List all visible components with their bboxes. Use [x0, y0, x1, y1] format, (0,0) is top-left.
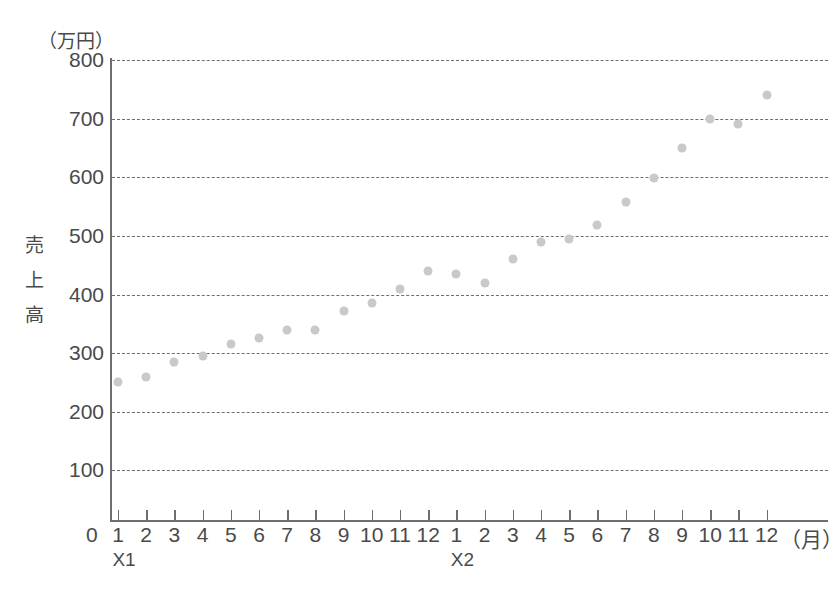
- gridline-300: [112, 353, 828, 354]
- x-tick-label-3: 3: [169, 523, 181, 547]
- x-tick-mark-7: [287, 510, 288, 520]
- gridline-400: [112, 295, 828, 296]
- y-axis-tick-labels: 100200300400500600700800: [48, 60, 104, 520]
- x-tick-label-4: 4: [197, 523, 209, 547]
- gridline-200: [112, 412, 828, 413]
- x-tick-mark-18: [597, 510, 598, 520]
- x-tick-label-19: 7: [620, 523, 632, 547]
- y-tick-label-400: 400: [69, 283, 104, 307]
- x-tick-mark-17: [569, 510, 570, 520]
- x-tick-label-1: 1: [112, 523, 124, 547]
- data-point: [593, 221, 602, 230]
- x-tick-label-6: 6: [253, 523, 265, 547]
- data-point: [142, 372, 151, 381]
- x-tick-label-11: 11: [389, 523, 411, 547]
- y-tick-label-200: 200: [69, 400, 104, 424]
- x-tick-mark-22: [710, 510, 711, 520]
- data-point: [621, 198, 630, 207]
- data-point: [396, 284, 405, 293]
- data-point: [424, 267, 433, 276]
- gridline-600: [112, 177, 828, 178]
- data-point: [649, 174, 658, 183]
- x-tick-label-7: 7: [281, 523, 293, 547]
- data-point: [452, 269, 461, 278]
- x-tick-mark-3: [174, 510, 175, 520]
- x-tick-label-14: 2: [479, 523, 491, 547]
- data-point: [537, 237, 546, 246]
- gridline-700: [112, 119, 828, 120]
- x-tick-mark-8: [315, 510, 316, 520]
- gridline-800: [112, 60, 828, 61]
- data-point: [255, 334, 264, 343]
- x-tick-label-9: 9: [338, 523, 350, 547]
- y-axis-title-char-0: 売: [22, 228, 46, 263]
- x-tick-label-5: 5: [225, 523, 237, 547]
- data-point: [706, 114, 715, 123]
- x-tick-mark-14: [485, 510, 486, 520]
- y-tick-label-600: 600: [69, 165, 104, 189]
- x-tick-label-12: 12: [417, 523, 440, 547]
- data-point: [565, 234, 574, 243]
- y-tick-label-700: 700: [69, 107, 104, 131]
- x-tick-mark-11: [400, 510, 401, 520]
- x-axis-origin-label: 0: [86, 523, 98, 547]
- data-point: [762, 91, 771, 100]
- y-tick-label-300: 300: [69, 341, 104, 365]
- x-tick-label-2: 2: [140, 523, 152, 547]
- chart-canvas: （万円） 売上高 100200300400500600700800 0 1234…: [0, 0, 833, 595]
- data-point: [283, 325, 292, 334]
- data-point: [508, 255, 517, 264]
- x-tick-mark-23: [738, 510, 739, 520]
- x-group-label-x2: X2: [451, 549, 474, 571]
- x-tick-mark-13: [456, 510, 457, 520]
- x-tick-mark-12: [428, 510, 429, 520]
- x-tick-mark-20: [654, 510, 655, 520]
- x-tick-label-21: 9: [676, 523, 688, 547]
- x-axis-unit-label: （月）: [780, 523, 833, 553]
- x-axis-tick-marks: [112, 510, 828, 522]
- y-axis-title: 売上高: [22, 228, 46, 333]
- x-tick-mark-1: [118, 510, 119, 520]
- x-tick-label-22: 10: [699, 523, 722, 547]
- data-point: [339, 306, 348, 315]
- x-tick-mark-6: [259, 510, 260, 520]
- data-point: [198, 352, 207, 361]
- x-tick-mark-4: [203, 510, 204, 520]
- data-point: [678, 143, 687, 152]
- x-tick-label-17: 5: [563, 523, 575, 547]
- x-tick-label-16: 4: [535, 523, 547, 547]
- y-tick-label-500: 500: [69, 224, 104, 248]
- x-tick-mark-21: [682, 510, 683, 520]
- x-tick-label-18: 6: [592, 523, 604, 547]
- plot-area: [112, 60, 828, 520]
- x-tick-label-20: 8: [648, 523, 660, 547]
- x-tick-label-15: 3: [507, 523, 519, 547]
- y-axis-title-char-2: 高: [22, 298, 46, 333]
- x-tick-mark-5: [231, 510, 232, 520]
- x-tick-mark-19: [626, 510, 627, 520]
- data-point: [367, 299, 376, 308]
- x-group-label-x1: X1: [112, 549, 135, 571]
- data-point: [311, 325, 320, 334]
- x-tick-mark-24: [767, 510, 768, 520]
- data-point: [114, 378, 123, 387]
- x-tick-mark-15: [513, 510, 514, 520]
- x-tick-mark-10: [372, 510, 373, 520]
- y-axis-title-char-1: 上: [22, 263, 46, 298]
- x-tick-label-13: 1: [451, 523, 463, 547]
- x-tick-label-23: 11: [727, 523, 749, 547]
- x-tick-label-8: 8: [310, 523, 322, 547]
- x-tick-label-24: 12: [755, 523, 778, 547]
- data-point: [170, 357, 179, 366]
- data-point: [226, 340, 235, 349]
- gridline-100: [112, 470, 828, 471]
- x-axis-tick-labels: 123456789101112123456789101112: [112, 523, 828, 551]
- y-tick-label-100: 100: [69, 458, 104, 482]
- y-tick-label-800: 800: [69, 48, 104, 72]
- gridline-500: [112, 236, 828, 237]
- x-tick-mark-2: [146, 510, 147, 520]
- x-tick-mark-16: [541, 510, 542, 520]
- x-tick-mark-9: [344, 510, 345, 520]
- x-tick-label-10: 10: [360, 523, 383, 547]
- data-point: [734, 120, 743, 129]
